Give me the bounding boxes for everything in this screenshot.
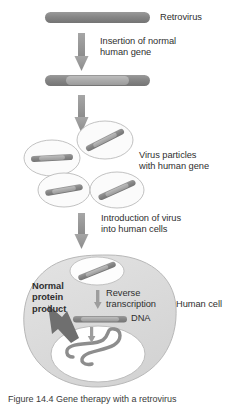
label-reverse-transcription: Reverse transcription	[106, 288, 156, 311]
label-introduction-of-virus-into-human-cells: Introduction of virus into human cells	[101, 213, 181, 236]
virus-particle	[90, 172, 144, 208]
label-virus-particles-with-human-gene: Virus particles with human gene	[139, 150, 209, 173]
virus-particle-group	[24, 121, 144, 208]
virus-particle	[77, 121, 133, 159]
down-arrow-icon-1	[75, 33, 89, 71]
virus-rod-icon	[45, 12, 150, 23]
figure-caption: Figure 14.4 Gene therapy with a retrovir…	[8, 394, 234, 404]
virus-particle	[38, 173, 90, 207]
virus-rod-with-gene-icon	[45, 75, 150, 86]
diagram-canvas	[0, 0, 238, 404]
dna-bar-icon	[73, 316, 127, 323]
virus-particle	[24, 140, 80, 176]
engulfed-virus-vesicle	[70, 257, 124, 285]
label-normal-protein-product: Normal protein product	[32, 281, 66, 315]
label-human-cell: Human cell	[176, 299, 222, 310]
label-insertion-of-normal-human-gene: Insertion of normal human gene	[100, 36, 176, 59]
label-retrovirus: Retrovirus	[160, 12, 202, 23]
human-cell	[24, 255, 176, 387]
label-dna: DNA	[131, 313, 150, 324]
down-arrow-icon-3	[75, 213, 89, 249]
figure-diagram: Retrovirus Insertion of normal human gen…	[0, 0, 238, 404]
